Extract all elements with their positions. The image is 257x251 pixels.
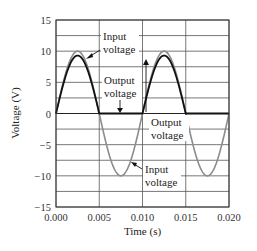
annotation-output-mid: Output voltage	[102, 74, 142, 113]
svg-text:voltage: voltage	[104, 87, 136, 99]
x-axis-ticks: 0.0000.0050.0100.0150.020	[44, 212, 241, 223]
svg-text:Output: Output	[151, 116, 182, 128]
x-axis-title: Time (s)	[124, 225, 162, 238]
x-tick-label: 0.020	[217, 212, 241, 223]
arrowhead-icon	[117, 108, 123, 113]
y-tick-label: 15	[41, 15, 52, 26]
svg-text:Input: Input	[103, 30, 126, 42]
arrowhead-icon	[131, 162, 137, 167]
y-axis-ticks: 151050−5−10−15	[35, 15, 51, 213]
svg-text:Output: Output	[104, 74, 135, 86]
x-tick-label: 0.015	[174, 212, 198, 223]
y-tick-label: 0	[46, 109, 51, 120]
x-tick-label: 0.005	[87, 212, 111, 223]
x-tick-label: 0.010	[131, 212, 155, 223]
arrowhead-icon	[86, 53, 93, 59]
y-tick-label: 10	[41, 46, 52, 57]
svg-text:voltage: voltage	[145, 176, 177, 188]
annotation-input-top: Input voltage	[86, 30, 139, 59]
x-tick-label: 0.000	[44, 212, 68, 223]
annotation-input-bottom: Input voltage	[131, 162, 181, 188]
y-tick-label: −5	[40, 140, 51, 151]
y-tick-label: 5	[46, 77, 51, 88]
y-axis-title: Voltage (V)	[9, 87, 22, 139]
svg-text:voltage: voltage	[151, 129, 183, 141]
svg-text:Input: Input	[145, 163, 168, 175]
arrowhead-icon	[143, 59, 149, 65]
rectifier-voltage-chart: 151050−5−10−15 0.0000.0050.0100.0150.020…	[0, 0, 257, 251]
svg-text:voltage: voltage	[103, 43, 135, 55]
y-tick-label: −10	[35, 171, 51, 182]
